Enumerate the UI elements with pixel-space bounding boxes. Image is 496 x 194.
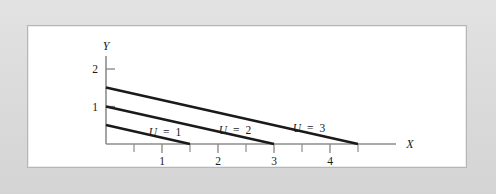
curve-label-u3-value: 3 <box>319 122 325 134</box>
curve-label-u2: U = 2 <box>219 124 252 136</box>
curve-label-u2-equals: = <box>233 124 240 136</box>
y-tick-label-2: 2 <box>92 63 98 75</box>
x-tick-label-4: 4 <box>327 155 333 167</box>
curve-label-u2-value: 2 <box>245 124 251 136</box>
curve-label-u3: U = 3 <box>293 122 326 134</box>
x-tick-label-3: 3 <box>271 155 277 167</box>
curve-label-u2-symbol: U <box>219 124 228 136</box>
y-axis-label: Y <box>103 39 111 53</box>
figure-panel: 2 1 Y 1 2 3 4 <box>27 25 467 168</box>
curve-label-u3-symbol: U <box>293 122 302 134</box>
x-axis-label: X <box>405 137 414 151</box>
curve-label-u1-symbol: U <box>149 126 158 138</box>
chart-svg: 2 1 Y 1 2 3 4 <box>28 26 468 169</box>
x-tick-label-2: 2 <box>215 155 221 167</box>
plot-area: 2 1 Y 1 2 3 4 <box>28 26 468 169</box>
curve-label-u1-value: 1 <box>175 126 181 138</box>
curve-label-u1-equals: = <box>163 126 170 138</box>
curve-label-u1: U = 1 <box>149 126 182 138</box>
x-tick-label-1: 1 <box>159 155 165 167</box>
figure-outer-background: 2 1 Y 1 2 3 4 <box>0 0 496 194</box>
y-tick-label-1: 1 <box>92 101 98 113</box>
curve-label-u3-equals: = <box>307 122 314 134</box>
